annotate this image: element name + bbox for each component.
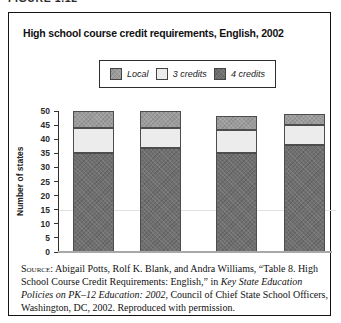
y-tick-label-40: 40: [41, 134, 50, 144]
legend: Local3 credits4 credits: [99, 60, 276, 88]
x-axis-baseline: [58, 251, 332, 253]
figure-label-text: FIGURE 1.12: [8, 0, 148, 4]
y-tick-label-15: 15: [41, 205, 50, 215]
y-tick-label-20: 20: [41, 191, 50, 201]
figure-label: FIGURE 1.12: [8, 0, 148, 5]
y-tick-label-50: 50: [41, 106, 50, 116]
bar-3-segment-local: [216, 116, 257, 130]
bar-1-segment-credits3: [73, 128, 114, 153]
legend-swatch-local: [110, 68, 122, 80]
legend-label-credits3: 3 credits: [173, 69, 207, 79]
y-axis: 05101520253035404550: [9, 111, 58, 252]
bar-2-segment-credits3: [140, 128, 181, 148]
bar-4-segment-local: [284, 114, 325, 125]
plot-area: [58, 111, 331, 252]
legend-item-credits3: 3 credits: [156, 68, 207, 80]
figure-box: High school course credit requirements, …: [8, 12, 331, 316]
y-tick-label-45: 45: [41, 120, 50, 130]
bar-4-segment-credits4: [284, 145, 325, 252]
legend-label-credits4: 4 credits: [231, 69, 265, 79]
bar-4: [284, 114, 325, 252]
bar-1-segment-credits4: [73, 153, 114, 252]
bar-1: [73, 111, 114, 252]
bar-4-segment-credits3: [284, 125, 325, 145]
y-tick-label-35: 35: [41, 148, 50, 158]
bar-3-segment-credits4: [216, 153, 257, 252]
bar-2-segment-credits4: [140, 148, 181, 252]
legend-swatch-credits4: [214, 68, 226, 80]
chart-title: High school course credit requirements, …: [23, 27, 284, 39]
source-note: Source: Abigail Potts, Rolf K. Blank, an…: [21, 262, 328, 314]
legend-item-credits4: 4 credits: [214, 68, 265, 80]
bar-2-segment-local: [140, 111, 181, 128]
page: { "figure_label": "FIGURE 1.12", "title"…: [0, 0, 341, 323]
y-tick-label-0: 0: [45, 247, 50, 257]
y-tick-label-10: 10: [41, 219, 50, 229]
legend-item-local: Local: [110, 68, 149, 80]
bar-3: [216, 116, 257, 252]
legend-label-local: Local: [127, 69, 149, 79]
y-tick-label-25: 25: [41, 177, 50, 187]
bar-2: [140, 111, 181, 252]
bar-3-segment-credits3: [216, 130, 257, 153]
y-tick-label-5: 5: [45, 233, 50, 243]
y-tick-label-30: 30: [41, 162, 50, 172]
legend-swatch-credits3: [156, 68, 168, 80]
bar-1-segment-local: [73, 111, 114, 128]
source-label: Source:: [21, 263, 53, 274]
